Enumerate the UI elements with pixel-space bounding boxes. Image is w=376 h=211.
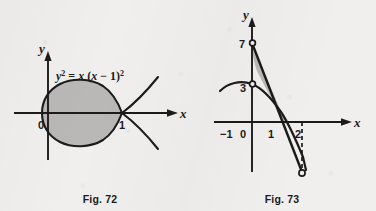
fig73-open-point-0-7 [250,40,256,46]
figure-72-caption: Fig. 72 [0,193,200,205]
fig73-y-axis-label: y [241,7,249,22]
fig73-xtick-2: 2 [295,128,301,140]
fig73-ytick-3: 3 [240,82,246,94]
fig73-x-axis-arrow [341,118,352,126]
figure-73: y x 7 3 −1 0 1 2 [0,0,376,190]
figure-73-caption: Fig. 73 [188,193,376,205]
fig73-x-axis-label: x [353,115,361,130]
fig73-open-point-0-3 [250,81,256,87]
fig73-y-axis-arrow [248,17,255,27]
fig73-xtick-0: 0 [240,128,246,140]
fig73-curve [220,82,306,170]
fig73-open-point-2-neg5 [299,170,305,176]
fig73-xtick-1: 1 [268,128,274,140]
fig73-ytick-7: 7 [239,38,245,50]
figure-page: y x 0 1 y2 = x (x − 1)2 y x 7 [0,0,376,211]
fig73-xtick-neg1: −1 [220,128,233,140]
